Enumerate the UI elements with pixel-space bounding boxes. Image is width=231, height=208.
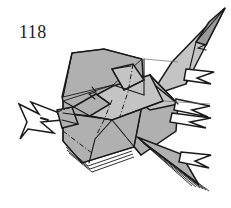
upper-wing-group (150, 8, 225, 96)
origami-diagram-figure: .fill-mid { fill:#b0b0b0; } .fill-dark {… (0, 0, 231, 208)
beak-and-crest (19, 102, 62, 139)
upper-talon (184, 69, 214, 84)
layered-tail-group (137, 137, 211, 191)
upper-talon-group (184, 69, 214, 84)
step-number-label: 118 (19, 23, 47, 41)
